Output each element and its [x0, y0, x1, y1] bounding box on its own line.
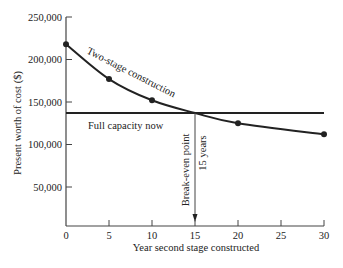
y-tick-label: 150,000 [28, 97, 62, 108]
x-tick-label: 25 [276, 230, 287, 241]
two-stage-point [63, 41, 69, 47]
break-even-chart: 50,000100,000150,000200,000250,000051015… [0, 0, 343, 268]
series-layer [63, 41, 327, 222]
y-tick-label: 200,000 [28, 54, 62, 65]
full-capacity-label: Full capacity now [88, 120, 164, 131]
x-tick-label: 5 [106, 230, 111, 241]
y-tick-label: 100,000 [28, 139, 62, 150]
x-tick-label: 0 [63, 230, 68, 241]
y-tick-label: 250,000 [28, 12, 62, 23]
y-axis-label: Present worth of cost ($) [12, 71, 24, 175]
y-tick-label: 50,000 [33, 182, 62, 193]
break-even-arrow-icon [193, 214, 198, 222]
x-tick-label: 10 [147, 230, 158, 241]
axes: 50,000100,000150,000200,000250,000051015… [28, 12, 329, 242]
x-tick-label: 15 [190, 230, 201, 241]
two-stage-point [149, 97, 155, 103]
years-label: 15 years [197, 135, 208, 170]
two-stage-point [235, 120, 241, 126]
x-axis-label: Year second stage constructed [133, 242, 260, 253]
two-stage-point [106, 76, 112, 82]
break-even-label: Break-even point [180, 134, 191, 207]
two-stage-point [321, 131, 327, 137]
x-tick-label: 30 [319, 230, 330, 241]
x-tick-label: 20 [233, 230, 244, 241]
